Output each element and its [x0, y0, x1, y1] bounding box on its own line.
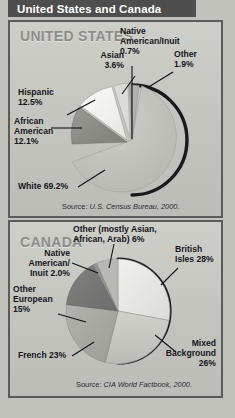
us-source: Source: U.S. Census Bureau, 2000. [62, 202, 180, 211]
ca-label-french: French 23% [18, 350, 66, 360]
page-title: United States and Canada [8, 3, 161, 15]
page-title-bar: United States and Canada [8, 0, 196, 17]
ca-label-british-isles: British Isles 28% [175, 244, 214, 264]
ca-label-native-american: Native American/ Inuit 2.0% [10, 248, 70, 279]
infographic-page: United States and Canada UNITED STATES [0, 0, 235, 418]
us-label-native-american: Native American/Inuit 0.7% [120, 26, 180, 57]
ca-label-other: Other (mostly Asian, African, Arab) 6% [73, 224, 157, 244]
ca-source: Source: CIA World Factbook, 2000. [76, 380, 192, 389]
united-states-panel: UNITED STATES [8, 20, 223, 218]
us-leader-other [147, 72, 173, 88]
us-label-african-american: African American 12.1% [14, 116, 53, 147]
ca-leader-british [161, 268, 178, 285]
ca-label-mixed-background: Mixed Background 26% [140, 338, 216, 369]
ca-label-other-european: Other European 15% [13, 284, 53, 315]
us-label-hispanic: Hispanic 12.5% [18, 87, 54, 107]
us-label-white: White 69.2% [18, 181, 68, 191]
us-label-other: Other 1.9% [174, 49, 197, 69]
us-label-asian: Asian 3.6% [62, 50, 124, 70]
canada-panel: CANADA [8, 220, 223, 398]
ca-slice-british-isles [118, 259, 170, 321]
